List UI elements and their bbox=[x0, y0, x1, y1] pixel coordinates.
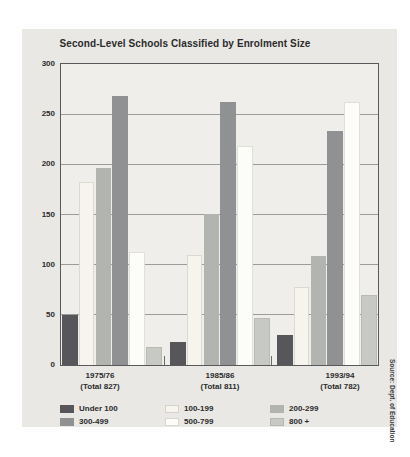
x-axis-label-1975-76: 1975/76(Total 827) bbox=[55, 371, 145, 393]
y-axis-label-300: 300 bbox=[29, 59, 55, 68]
legend-label-under-100: Under 100 bbox=[79, 404, 118, 413]
source-note: Source: Dept. of Education bbox=[389, 359, 396, 445]
y-axis-label-200: 200 bbox=[29, 159, 55, 168]
legend-swatch-under-100 bbox=[60, 405, 74, 413]
legend-swatch-300-499 bbox=[60, 418, 74, 426]
bar-300-499-1985-86 bbox=[220, 102, 236, 365]
legend-label-500-799: 500-799 bbox=[184, 417, 213, 426]
bar-100-199-1975-76 bbox=[79, 182, 95, 365]
bar-100-199-1993-94 bbox=[294, 287, 310, 365]
bar-500-799-1985-86 bbox=[237, 146, 253, 365]
bar-under-100-1975-76 bbox=[62, 315, 78, 365]
legend-label-800: 800 + bbox=[289, 417, 309, 426]
y-axis-label-150: 150 bbox=[29, 210, 55, 219]
bar-500-799-1993-94 bbox=[344, 102, 360, 365]
legend: Under 100100-199200-299300-499500-799800… bbox=[60, 404, 360, 428]
x-axis-total: (Total 827) bbox=[55, 382, 145, 393]
bar-100-199-1985-86 bbox=[187, 255, 203, 365]
bar-300-499-1975-76 bbox=[112, 96, 128, 365]
bar-800-1993-94 bbox=[361, 295, 377, 365]
bar-200-299-1993-94 bbox=[311, 256, 327, 365]
bar-300-499-1993-94 bbox=[327, 131, 343, 365]
legend-label-300-499: 300-499 bbox=[79, 417, 108, 426]
plot-area bbox=[60, 63, 379, 366]
legend-swatch-500-799 bbox=[165, 418, 179, 426]
bar-200-299-1985-86 bbox=[204, 214, 220, 366]
y-axis-label-0: 0 bbox=[29, 360, 55, 369]
legend-swatch-100-199 bbox=[165, 405, 179, 413]
legend-label-200-299: 200-299 bbox=[289, 404, 318, 413]
bar-under-100-1985-86 bbox=[170, 342, 186, 365]
x-axis-label-1993-94: 1993/94(Total 782) bbox=[295, 371, 385, 393]
group-divider-tick bbox=[164, 356, 165, 365]
y-axis-label-250: 250 bbox=[29, 109, 55, 118]
y-axis-label-100: 100 bbox=[29, 260, 55, 269]
x-axis-label-1985-86: 1985/86(Total 811) bbox=[175, 371, 265, 393]
bar-under-100-1993-94 bbox=[277, 335, 293, 365]
y-axis-label-50: 50 bbox=[29, 310, 55, 319]
chart-title: Second-Level Schools Classified by Enrol… bbox=[40, 38, 330, 49]
x-axis-year: 1993/94 bbox=[295, 371, 385, 382]
group-divider-tick bbox=[271, 356, 272, 365]
legend-swatch-800 bbox=[270, 418, 284, 426]
bar-200-299-1975-76 bbox=[96, 168, 112, 365]
legend-label-100-199: 100-199 bbox=[184, 404, 213, 413]
x-axis-total: (Total 782) bbox=[295, 382, 385, 393]
x-axis-year: 1975/76 bbox=[55, 371, 145, 382]
bar-500-799-1975-76 bbox=[129, 252, 145, 365]
x-axis-year: 1985/86 bbox=[175, 371, 265, 382]
x-axis-total: (Total 811) bbox=[175, 382, 265, 393]
bar-800-1985-86 bbox=[254, 318, 270, 365]
bar-800-1975-76 bbox=[146, 347, 162, 365]
legend-swatch-200-299 bbox=[270, 405, 284, 413]
